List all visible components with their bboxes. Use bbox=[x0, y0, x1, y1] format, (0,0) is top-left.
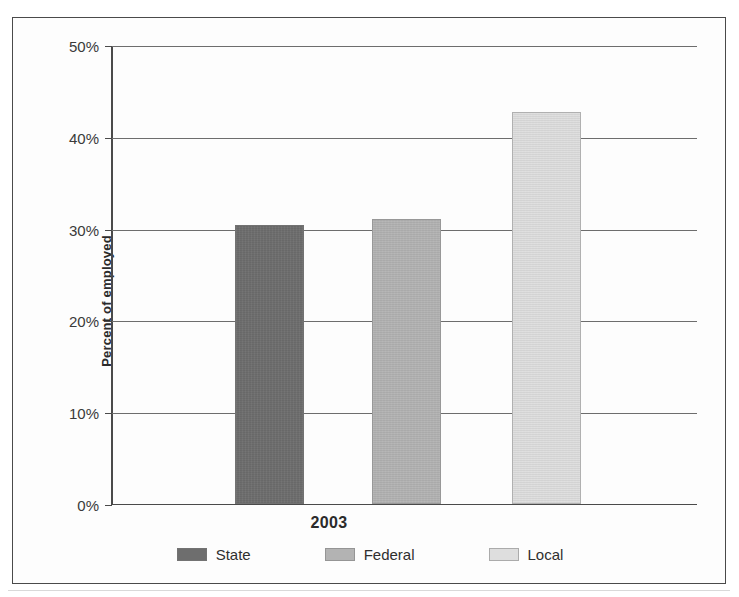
scan-edge-line bbox=[8, 590, 730, 591]
x-category-label: 2003 bbox=[13, 514, 727, 532]
bar-local bbox=[512, 112, 581, 504]
y-axis-tick-label: 0% bbox=[77, 497, 99, 514]
legend-item-state: State bbox=[177, 546, 251, 563]
legend-label-federal: Federal bbox=[364, 546, 415, 563]
legend-swatch-federal bbox=[325, 548, 355, 561]
clipped-caption bbox=[0, 0, 739, 7]
y-axis-tick bbox=[105, 46, 112, 47]
legend-item-federal: Federal bbox=[325, 546, 415, 563]
bar-state bbox=[235, 225, 304, 503]
y-axis-tick-label: 40% bbox=[69, 129, 99, 146]
y-axis-tick bbox=[105, 413, 112, 414]
y-axis-line bbox=[111, 46, 113, 505]
y-axis-tick-label: 50% bbox=[69, 38, 99, 55]
x-category-label-text: 2003 bbox=[311, 514, 348, 532]
legend-swatch-state bbox=[177, 548, 207, 561]
y-axis-tick-label: 20% bbox=[69, 313, 99, 330]
y-axis-tick bbox=[105, 138, 112, 139]
bar-federal bbox=[372, 219, 441, 504]
legend-label-state: State bbox=[216, 546, 251, 563]
gridline bbox=[111, 46, 697, 47]
legend-item-local: Local bbox=[489, 546, 564, 563]
legend-swatch-local bbox=[489, 548, 519, 561]
plot-area: 0%10%20%30%40%50% bbox=[111, 46, 697, 505]
y-axis-tick bbox=[105, 505, 112, 506]
y-axis-tick-label: 30% bbox=[69, 221, 99, 238]
y-axis-tick bbox=[105, 321, 112, 322]
gridline bbox=[111, 138, 697, 139]
legend-label-local: Local bbox=[528, 546, 564, 563]
x-axis-line bbox=[111, 504, 697, 506]
figure-frame: Percent of employed 0%10%20%30%40%50% 20… bbox=[12, 17, 726, 584]
y-axis-tick bbox=[105, 230, 112, 231]
y-axis-tick-label: 10% bbox=[69, 405, 99, 422]
chart-legend: StateFederalLocal bbox=[13, 546, 727, 563]
